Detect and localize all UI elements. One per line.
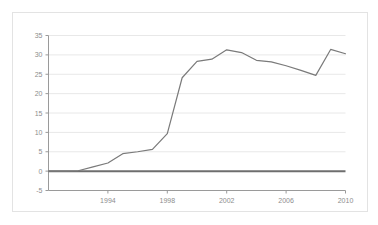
x-tick-label: 2010 (338, 197, 354, 204)
y-tick-label: 15 (35, 110, 43, 117)
data-series-line (49, 49, 346, 171)
x-axis (49, 191, 346, 194)
x-tick-label: 1998 (160, 197, 176, 204)
y-tick-labels: -505101520253035 (35, 32, 43, 194)
grid-lines (49, 36, 346, 152)
y-tick-label: 20 (35, 90, 43, 97)
y-tick-label: 0 (39, 168, 43, 175)
x-tick-label: 2002 (219, 197, 235, 204)
y-axis (46, 36, 49, 191)
y-tick-label: 30 (35, 51, 43, 58)
y-tick-label: 35 (35, 32, 43, 39)
x-tick-label: 1994 (100, 197, 116, 204)
x-tick-label: 2006 (278, 197, 294, 204)
y-tick-label: 25 (35, 71, 43, 78)
line-chart-plot: -505101520253035 19941998200220062010 (0, 0, 378, 225)
x-tick-labels: 19941998200220062010 (100, 197, 353, 204)
series-line (49, 49, 346, 171)
y-tick-label: 5 (39, 148, 43, 155)
chart-container: -505101520253035 19941998200220062010 (0, 0, 378, 225)
y-tick-label: 10 (35, 129, 43, 136)
y-tick-label: -5 (36, 187, 42, 194)
